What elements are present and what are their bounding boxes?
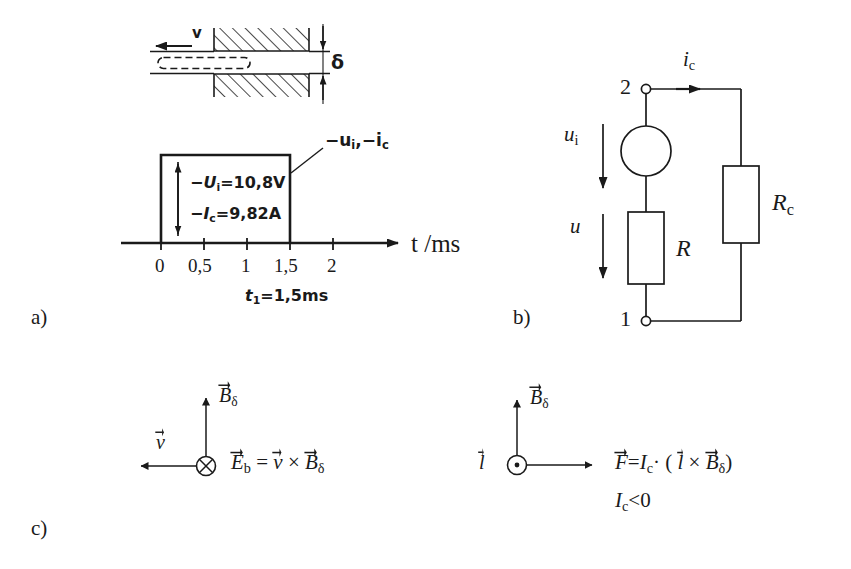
panel-c-left-vector-drawing — [141, 398, 216, 476]
panel-a-geometry-drawing — [150, 24, 330, 104]
panel-a-pulse-plot-drawing — [121, 148, 398, 250]
terminal-2-label: 2 — [620, 76, 631, 98]
e-b-symbol: E — [231, 450, 244, 474]
ic-factor-symbol: I — [640, 450, 647, 474]
condition-symbol: I — [615, 488, 622, 512]
b-delta-sub-left: δ — [231, 394, 237, 409]
panel-b-circuit-drawing — [603, 84, 759, 325]
source-voltage-symbol: u — [564, 122, 575, 146]
source-voltage-ui-label: ui — [564, 124, 578, 147]
upper-core-block — [214, 28, 309, 51]
current-sign-condition: Ic<0 — [615, 490, 651, 513]
cross-product-operator-left: × — [288, 450, 300, 474]
pulse-duration-value: 1,5ms — [274, 286, 329, 305]
panel-c-label: c) — [31, 518, 47, 539]
conductor-bar — [158, 58, 250, 69]
voltage-source-symbol — [621, 126, 671, 176]
b-delta-vector-left: B — [219, 385, 231, 405]
current-ic-sub: c — [689, 57, 695, 73]
pulse-curve-label: −ui,−ic — [325, 132, 389, 152]
resistor-r-label: R — [676, 236, 691, 260]
pulse-duration-note: t1=1,5ms — [245, 288, 328, 307]
b-delta-label-left: Bδ — [219, 385, 238, 408]
f-symbol: F — [615, 450, 628, 474]
terminal-1-label: 1 — [620, 308, 631, 330]
figure-root: a) b) c) v δ −ui,−ic −Ui=10,8V −Ic=9,82A… — [0, 0, 851, 569]
panel-c-right-vector-drawing — [508, 400, 593, 475]
resistor-rc-label: Rc — [772, 190, 794, 218]
b-delta-sub-equation-left: δ — [318, 460, 325, 476]
current-ic-label: ic — [683, 49, 695, 72]
current-annotation-value: 9,82A — [229, 204, 281, 223]
into-page-marker-icon — [197, 457, 216, 476]
current-annotation-prefix: − — [190, 204, 203, 223]
tick-label-0: 0 — [155, 256, 165, 275]
pulse-duration-equals: = — [260, 286, 273, 305]
terminal-1-node — [641, 316, 650, 325]
induced-field-equation: Eb = v × Bδ — [231, 452, 325, 475]
tick-label-2: 2 — [327, 256, 337, 275]
resistor-rc-symbol — [723, 166, 759, 243]
figure-drawing-canvas — [0, 0, 851, 569]
v-vector-equation: v — [273, 452, 282, 473]
tick-label-15: 1,5 — [274, 256, 298, 275]
gap-label: δ — [331, 53, 344, 72]
resistor-rc-symbol: R — [772, 189, 787, 215]
b-delta-label-right: Bδ — [530, 387, 549, 410]
pulse-duration-symbol: t — [245, 286, 253, 305]
pulse-curve-label-current-sub: c — [382, 138, 389, 152]
pulse-current-annotation: −Ic=9,82A — [190, 206, 281, 225]
current-annotation-equals: = — [216, 204, 229, 223]
resistor-rc-sub: c — [787, 200, 794, 219]
equation-equals-right: = — [628, 450, 640, 474]
pulse-curve-label-current: −i — [362, 130, 382, 150]
close-paren: ) — [725, 450, 732, 474]
l-vector-equation: l — [678, 452, 684, 473]
l-symbol-right: l — [479, 451, 485, 473]
l-vector-right: l — [479, 452, 485, 472]
pulse-curve-label-voltage: −u — [325, 130, 351, 150]
v-vector-left: v — [156, 432, 165, 452]
equation-equals-left: = — [256, 450, 268, 474]
terminal-2-node — [641, 84, 650, 93]
velocity-label: v — [192, 26, 202, 41]
b-delta-symbol-equation-right: B — [706, 450, 719, 474]
tick-label-1: 1 — [241, 256, 251, 275]
voltage-annotation-symbol: U — [203, 173, 216, 192]
tick-label-05: 0,5 — [188, 256, 212, 275]
open-paren: ( — [665, 450, 672, 474]
e-b-vector: E — [231, 452, 244, 473]
b-delta-vector-equation-left: B — [305, 452, 318, 473]
lower-core-block — [214, 74, 309, 97]
panel-b-label: b) — [513, 307, 531, 328]
curve-label-leader-line — [291, 148, 323, 173]
l-symbol-equation: l — [678, 450, 684, 474]
cross-product-operator-right: × — [689, 450, 701, 474]
multiplication-dot: · — [653, 450, 660, 474]
time-axis-label: t /ms — [411, 231, 460, 256]
b-delta-symbol-equation-left: B — [305, 450, 318, 474]
v-symbol-equation: v — [273, 450, 282, 474]
voltage-annotation-prefix: − — [190, 173, 203, 192]
pulse-voltage-annotation: −Ui=10,8V — [190, 175, 285, 194]
f-vector: F — [615, 452, 628, 473]
resistor-r-symbol — [628, 212, 664, 284]
v-symbol-left: v — [156, 431, 165, 453]
voltage-annotation-equals: = — [220, 173, 233, 192]
out-of-page-marker-icon — [508, 456, 527, 475]
resistor-voltage-u-label: u — [570, 216, 581, 237]
condition-relation: <0 — [628, 488, 650, 512]
b-delta-sub-right: δ — [542, 396, 548, 411]
voltage-annotation-value: 10,8V — [234, 173, 286, 192]
b-delta-vector-right: B — [530, 387, 542, 407]
lorentz-force-equation: F=Ic· ( l × Bδ) — [615, 452, 732, 475]
b-delta-vector-equation-right: B — [706, 452, 719, 473]
v-label-left: v — [156, 432, 165, 452]
panel-a-label: a) — [31, 307, 47, 328]
length-label-right: l — [479, 452, 485, 472]
b-delta-symbol-right: B — [530, 386, 542, 408]
b-delta-symbol-left: B — [219, 384, 231, 406]
e-b-sub: b — [244, 460, 251, 476]
pulse-waveform — [161, 155, 290, 243]
source-voltage-sub: i — [575, 132, 579, 148]
